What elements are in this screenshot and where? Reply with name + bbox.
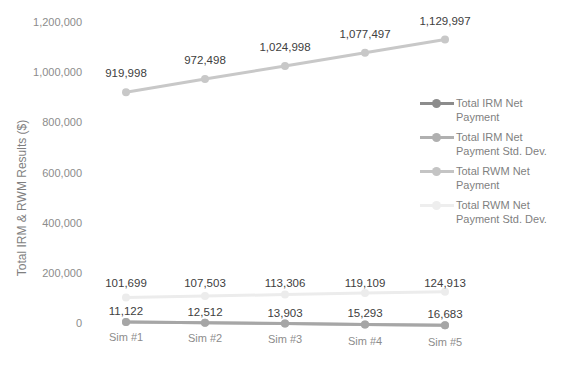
data-label: 119,109 bbox=[345, 277, 386, 289]
series-3: 101,699107,503113,306119,109124,913 bbox=[105, 277, 466, 301]
data-point[interactable] bbox=[441, 321, 449, 329]
data-label: 1,077,497 bbox=[339, 28, 390, 40]
data-label: 919,998 bbox=[105, 67, 147, 79]
data-label: 107,503 bbox=[184, 277, 226, 289]
data-point[interactable] bbox=[201, 292, 209, 300]
data-point[interactable] bbox=[441, 36, 449, 44]
data-label: 113,306 bbox=[265, 277, 306, 289]
line-marker-icon bbox=[418, 96, 456, 110]
y-tick-label: 400,000 bbox=[42, 217, 82, 229]
data-point[interactable] bbox=[122, 88, 130, 96]
data-label: 972,498 bbox=[184, 54, 226, 66]
data-label: 15,293 bbox=[347, 307, 382, 319]
x-tick-label: Sim #3 bbox=[268, 333, 302, 345]
data-label: 11,122 bbox=[109, 305, 143, 317]
data-label: 13,903 bbox=[267, 307, 302, 319]
legend-label: Total RWM Net Payment bbox=[456, 164, 566, 192]
legend-label: Total IRM Net Payment Std. Dev. bbox=[456, 130, 566, 158]
data-point[interactable] bbox=[201, 75, 209, 83]
data-point[interactable] bbox=[281, 320, 289, 328]
data-label: 1,129,997 bbox=[419, 15, 470, 27]
data-label: 124,913 bbox=[424, 277, 466, 289]
y-axis: 0200,000400,000600,000800,0001,000,0001,… bbox=[33, 16, 82, 329]
legend-label: Total RWM Net Payment Std. Dev. bbox=[456, 198, 566, 226]
series-2: 919,998972,4981,024,9981,077,4971,129,99… bbox=[105, 15, 470, 97]
series-lines: 101,699107,503113,306119,109124,913919,9… bbox=[105, 15, 470, 330]
legend-item-rwm-net[interactable]: Total RWM Net Payment bbox=[418, 164, 582, 192]
data-point[interactable] bbox=[281, 291, 289, 299]
data-point[interactable] bbox=[361, 289, 369, 297]
x-axis: Sim #1Sim #2Sim #3Sim #4Sim #5 bbox=[109, 331, 462, 348]
y-axis-title: Total IRM & RWM Results ($) bbox=[15, 120, 29, 276]
y-tick-label: 1,000,000 bbox=[33, 66, 82, 78]
x-tick-label: Sim #4 bbox=[348, 335, 382, 347]
data-label: 16,683 bbox=[427, 308, 462, 320]
series-0: 11,12212,51213,90315,29316,683 bbox=[109, 305, 463, 329]
legend: Total IRM Net Payment Total IRM Net Paym… bbox=[418, 96, 582, 232]
y-tick-label: 1,200,000 bbox=[33, 16, 82, 28]
data-point[interactable] bbox=[361, 320, 369, 328]
line-marker-icon bbox=[418, 164, 456, 178]
data-label: 12,512 bbox=[187, 306, 222, 318]
x-tick-label: Sim #1 bbox=[109, 331, 143, 343]
data-point[interactable] bbox=[122, 318, 130, 326]
y-tick-label: 0 bbox=[76, 317, 82, 329]
y-tick-label: 600,000 bbox=[42, 167, 82, 179]
data-point[interactable] bbox=[201, 319, 209, 327]
data-label: 101,699 bbox=[105, 277, 147, 289]
data-label: 1,024,998 bbox=[259, 41, 310, 53]
x-tick-label: Sim #2 bbox=[188, 332, 222, 344]
legend-label: Total IRM Net Payment bbox=[456, 96, 566, 124]
legend-item-irm-net[interactable]: Total IRM Net Payment bbox=[418, 96, 582, 124]
line-marker-icon bbox=[418, 130, 456, 144]
data-point[interactable] bbox=[281, 62, 289, 70]
data-point[interactable] bbox=[361, 49, 369, 57]
legend-item-rwm-stddev[interactable]: Total RWM Net Payment Std. Dev. bbox=[418, 198, 582, 226]
legend-item-irm-stddev[interactable]: Total IRM Net Payment Std. Dev. bbox=[418, 130, 582, 158]
x-tick-label: Sim #5 bbox=[428, 336, 462, 348]
y-tick-label: 200,000 bbox=[42, 267, 82, 279]
line-marker-icon bbox=[418, 198, 456, 212]
y-tick-label: 800,000 bbox=[42, 116, 82, 128]
data-point[interactable] bbox=[122, 293, 130, 301]
